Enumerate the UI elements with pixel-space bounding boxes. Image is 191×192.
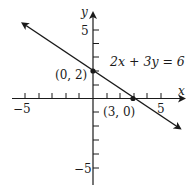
point-label-0-2: (0, 2) [55, 68, 87, 82]
coordinate-plane: x y −5 5 5 −5 2x + 3y = 6 (0, 2) (3, 0) [0, 0, 191, 192]
equation-label: 2x + 3y = 6 [109, 54, 185, 69]
point-x-intercept [130, 96, 135, 101]
y-axis-label: y [80, 5, 88, 19]
y-tick-label-5: 5 [81, 24, 89, 38]
x-tick-label-5: 5 [157, 102, 165, 116]
point-label-3-0: (3, 0) [103, 105, 135, 119]
y-tick-label-neg5: −5 [74, 162, 92, 176]
x-tick-label-neg5: −5 [13, 102, 31, 116]
x-axis-label: x [178, 84, 185, 98]
point-y-intercept [90, 68, 95, 73]
graph: x y −5 5 5 −5 2x + 3y = 6 (0, 2) (3, 0) [0, 0, 191, 192]
